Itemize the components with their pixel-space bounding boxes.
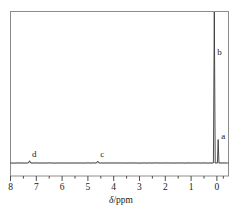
x-tick-label-1: 1 <box>189 183 194 193</box>
x-tick-label-7: 7 <box>34 183 39 193</box>
x-tick-label-8: 8 <box>8 183 13 193</box>
peak-label-c: c <box>100 150 104 159</box>
x-tick-label-6: 6 <box>60 183 65 193</box>
axis-tick-marks <box>11 176 224 181</box>
x-tick-label-2: 2 <box>163 183 168 193</box>
x-tick-label-3: 3 <box>137 183 142 193</box>
peak-label-b: b <box>217 48 222 57</box>
peak-label-a: a <box>221 132 225 141</box>
x-tick-label-0: 0 <box>215 183 220 193</box>
peak-label-d: d <box>32 150 37 159</box>
x-tick-label-5: 5 <box>86 183 91 193</box>
x-axis-title: δ/ppm <box>109 196 133 206</box>
nmr-spectrum-figure: 876543210 dcba δ/ppm <box>0 0 243 217</box>
x-tick-label-4: 4 <box>111 183 116 193</box>
axis-unit: /ppm <box>113 195 133 205</box>
plot-frame <box>11 12 229 177</box>
